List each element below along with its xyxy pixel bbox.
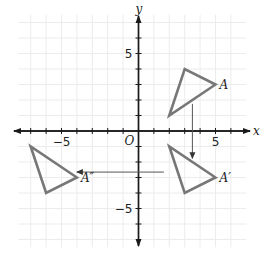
coordinate-plane: xyO−555−5AA′A″: [0, 0, 265, 259]
x-tick-label: −5: [53, 135, 71, 149]
y-axis-label: y: [135, 2, 143, 16]
y-tick-label: 5: [125, 47, 133, 61]
x-tick-label: 5: [212, 135, 220, 149]
triangle-A-double-prime-label: A″: [80, 171, 95, 185]
triangle-A-double-prime: [31, 147, 77, 194]
y-tick-label: −5: [115, 202, 133, 216]
origin-label: O: [125, 134, 135, 148]
triangle-A-prime-label: A′: [219, 171, 232, 185]
triangle-A-label: A: [219, 78, 229, 92]
labels: xyO−555−5AA′A″: [53, 2, 260, 216]
x-axis-label: x: [253, 124, 260, 138]
